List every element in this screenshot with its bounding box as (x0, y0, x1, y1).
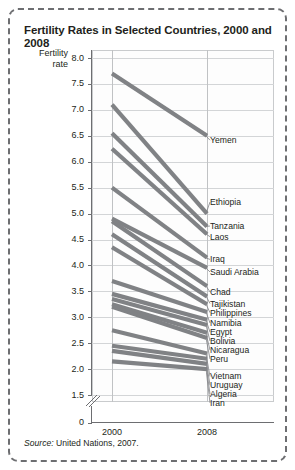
x-axis-tick-label: 2000 (88, 427, 136, 437)
series-line (112, 133, 207, 226)
source-label: Source: (24, 438, 54, 448)
y-axis-tick-label: 0 (54, 418, 84, 427)
label-leader-line (206, 367, 222, 407)
y-axis-tick-label: 6.5 (54, 131, 84, 140)
figure-panel: Fertility Rates in Selected Countries, 2… (8, 8, 287, 462)
label-leader-line (206, 134, 222, 174)
y-axis-tick-label: 3.0 (54, 313, 84, 322)
y-axis-tick-label: 7.0 (54, 105, 84, 114)
y-axis-tick-label: 1.5 (54, 391, 84, 400)
y-axis-tick-label: 2.5 (54, 339, 84, 348)
y-axis-tick-label: 2.0 (54, 365, 84, 374)
y-axis-tick-label: 4.5 (54, 235, 84, 244)
x-axis-tick-label: 2008 (183, 427, 231, 437)
y-axis-tick-label: 7.5 (54, 79, 84, 88)
page-title: Fertility Rates in Selected Countries, 2… (24, 24, 276, 50)
y-axis-tick-label: 6.0 (54, 157, 84, 166)
y-axis-tick-label: 5.0 (54, 209, 84, 218)
x-axis-line (92, 422, 274, 423)
y-axis-tick-label: 5.5 (54, 183, 84, 192)
source-note: Source: United Nations, 2007. (24, 438, 139, 448)
source-value: United Nations, 2007. (54, 438, 139, 448)
series-line (112, 74, 207, 136)
y-axis-tick-label: 4.0 (54, 261, 84, 270)
y-axis-tick-label: 3.5 (54, 287, 84, 296)
y-axis-tick-label: 8.0 (54, 54, 84, 63)
